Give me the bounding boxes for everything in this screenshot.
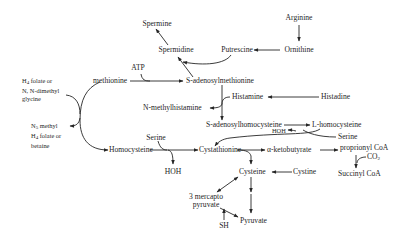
node-s-adenosylhomocysteine: S-adenosylhomocysteine	[206, 121, 282, 129]
node-putrescine: Putrescine	[221, 46, 253, 54]
hoh-out-top	[288, 130, 296, 131]
node-serine-right: Serine	[338, 133, 357, 141]
node-spermidine: Spermidine	[158, 46, 193, 54]
node-succinyl-coa: Succinyl CoA	[338, 170, 381, 178]
arrow-to-n5methyl	[70, 118, 80, 126]
node-pyruvate: Pyruvate	[240, 217, 267, 225]
hoh-out-left	[168, 150, 173, 164]
node-histamine: Histamine	[232, 93, 263, 101]
node-cystine: Cystine	[293, 168, 316, 176]
node-3-mercapto-pyruvate: 3 mercapto pyruvate	[189, 193, 223, 209]
node-l-homocysteine: L-homocysteine	[312, 121, 361, 129]
node-serine-left: Serine	[146, 134, 165, 142]
arrow-cysteine-mercapto	[217, 177, 238, 192]
node-hoh-top: HOH	[272, 127, 286, 135]
node-atp: ATP	[131, 64, 145, 72]
branch-h4folate	[66, 95, 80, 114]
atp-branch	[141, 74, 150, 81]
pathway-diagram: Arginine Ornithine Putrescine Spermidine…	[0, 0, 403, 239]
node-methionine: methionine	[93, 77, 127, 85]
serine-in-right	[303, 130, 336, 137]
node-n-methylhistamine: N-methylhistamine	[143, 104, 202, 112]
node-spermine: Spermine	[142, 20, 171, 28]
node-alpha-ketobutyrate: α-ketobutyrate	[267, 146, 311, 154]
node-ornithine: Ornithine	[284, 46, 313, 54]
node-cysteine: Cysteine	[239, 168, 266, 176]
arrow-lhomocysteine-cystathionine	[215, 129, 320, 146]
node-homocysteine: Homocysteine	[109, 146, 153, 154]
curve-methionine-homocysteine	[80, 82, 108, 150]
arrow-putrescine-spermidine	[183, 55, 231, 64]
arrow-to-n-methylhistamine	[210, 104, 222, 108]
node-h4-folate-dimethylglycine: H4 folate or N, N-dimethyl glycine	[22, 77, 59, 103]
node-sh: SH	[219, 222, 229, 230]
node-hoh-left: HOH	[165, 168, 181, 176]
arrow-spermidine-spermine	[156, 29, 168, 45]
node-proprionyl-coa: proprionyl CoA	[340, 144, 388, 152]
node-n5methyl-h4folate-betaine: N5 methyl H4 folate or betaine	[31, 122, 61, 150]
node-histadine: Histadine	[321, 93, 350, 101]
serine-in-left	[158, 141, 167, 150]
node-arginine: Arginine	[286, 14, 313, 22]
arrow-sam-spermidine	[178, 57, 193, 77]
node-cystathionine: Cystathionine	[199, 146, 241, 154]
arrow-mercapto-pyruvate	[220, 208, 238, 217]
co2-out	[357, 157, 366, 163]
node-co2: CO2	[367, 153, 380, 163]
node-s-adenosylmethionine: S-adenosylmethionine	[186, 77, 254, 85]
branch-histamine	[222, 97, 230, 104]
